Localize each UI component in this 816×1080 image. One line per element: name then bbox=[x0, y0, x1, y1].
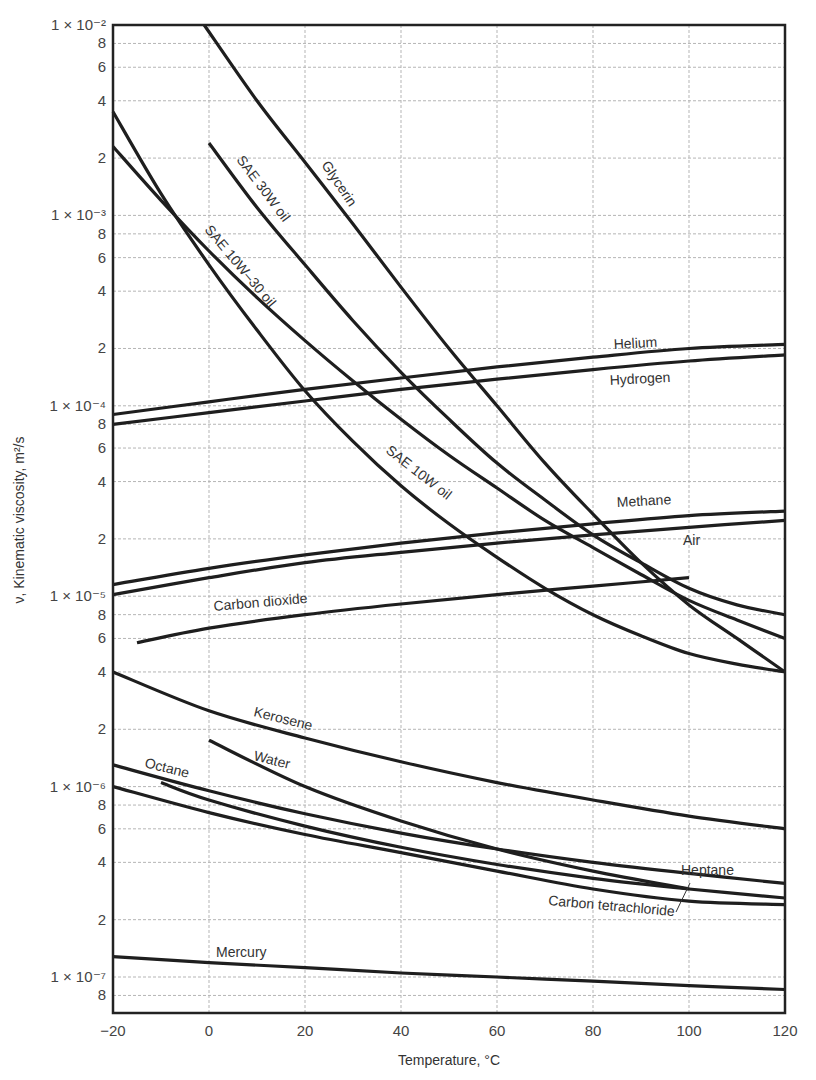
label-heptane: Heptane bbox=[681, 862, 734, 878]
y-tick-label: 1 × 10⁻² bbox=[51, 16, 106, 33]
label-helium: Helium bbox=[613, 334, 657, 352]
y-tick-label: 8 bbox=[98, 34, 106, 51]
curve-heptane bbox=[161, 783, 785, 898]
y-tick-label: 1 × 10⁻⁴ bbox=[49, 397, 106, 414]
y-tick-label: 1 × 10⁻³ bbox=[51, 206, 106, 223]
y-axis-title: ν, Kinematic viscosity, m²/s bbox=[11, 437, 27, 604]
curve-hydrogen bbox=[113, 355, 785, 424]
label-glycerin: Glycerin bbox=[319, 158, 361, 210]
y-tick-label: 8 bbox=[98, 225, 106, 242]
label-water: Water bbox=[252, 747, 292, 772]
label-carbon-dioxide: Carbon dioxide bbox=[213, 590, 308, 614]
y-tick-label: 4 bbox=[98, 853, 106, 870]
y-axis-ticks: 1 × 10⁻²86421 × 10⁻³86421 × 10⁻⁴86421 × … bbox=[49, 16, 106, 1003]
y-tick-label: 8 bbox=[98, 796, 106, 813]
curve-mercury bbox=[113, 957, 785, 990]
viscosity-chart: GlycerinSAE 30W oilSAE 10W–30 oilSAE 10W… bbox=[0, 0, 816, 1080]
label-air: Air bbox=[683, 532, 700, 548]
y-tick-label: 4 bbox=[98, 663, 106, 680]
label-sae-10w-30-oil: SAE 10W–30 oil bbox=[202, 222, 280, 310]
label-carbon-tetrachloride: Carbon tetrachloride bbox=[548, 892, 676, 919]
y-tick-label: 1 × 10⁻⁶ bbox=[50, 778, 106, 795]
y-tick-label: 2 bbox=[98, 339, 106, 356]
x-tick-label: 60 bbox=[489, 1022, 506, 1039]
y-tick-label: 6 bbox=[98, 439, 106, 456]
y-tick-label: 4 bbox=[98, 92, 106, 109]
x-axis-ticks: −20020406080100120 bbox=[100, 1022, 797, 1039]
x-tick-label: 120 bbox=[772, 1022, 797, 1039]
y-tick-label: 6 bbox=[98, 820, 106, 837]
curve-sae-10w-oil bbox=[113, 112, 785, 672]
x-tick-label: −20 bbox=[100, 1022, 125, 1039]
x-tick-label: 40 bbox=[393, 1022, 410, 1039]
x-tick-label: 20 bbox=[297, 1022, 314, 1039]
y-tick-label: 2 bbox=[98, 530, 106, 547]
y-tick-label: 1 × 10⁻⁵ bbox=[50, 587, 106, 604]
y-tick-label: 4 bbox=[98, 282, 106, 299]
x-tick-label: 80 bbox=[585, 1022, 602, 1039]
x-tick-label: 0 bbox=[205, 1022, 213, 1039]
y-tick-label: 6 bbox=[98, 58, 106, 75]
y-tick-label: 2 bbox=[98, 149, 106, 166]
y-tick-label: 6 bbox=[98, 249, 106, 266]
y-tick-label: 8 bbox=[98, 415, 106, 432]
y-tick-label: 2 bbox=[98, 720, 106, 737]
data-curves bbox=[113, 25, 785, 990]
curve-sae-10w-30-oil bbox=[113, 147, 785, 639]
x-tick-label: 100 bbox=[676, 1022, 701, 1039]
x-axis-title: Temperature, °C bbox=[398, 1052, 500, 1068]
y-tick-label: 8 bbox=[98, 606, 106, 623]
curve-helium bbox=[113, 344, 785, 414]
y-tick-label: 8 bbox=[98, 986, 106, 1003]
y-tick-label: 2 bbox=[98, 911, 106, 928]
label-octane: Octane bbox=[143, 754, 191, 780]
label-hydrogen: Hydrogen bbox=[609, 369, 670, 388]
y-tick-label: 1 × 10⁻⁷ bbox=[50, 968, 106, 985]
y-tick-label: 6 bbox=[98, 629, 106, 646]
label-methane: Methane bbox=[616, 491, 671, 510]
y-tick-label: 4 bbox=[98, 473, 106, 490]
label-mercury: Mercury bbox=[216, 944, 267, 960]
